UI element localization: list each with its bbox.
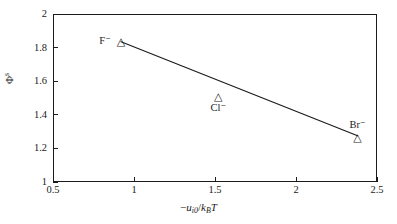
data-point-marker: △ (214, 91, 222, 102)
data-layer (0, 0, 397, 224)
data-point-marker: △ (353, 131, 361, 142)
x-axis-label: −ui0/kBT (0, 201, 397, 215)
y-axis-label: Φs (2, 73, 15, 84)
data-point-label: F⁻ (99, 36, 110, 47)
data-point-label: Br⁻ (350, 119, 366, 130)
x-axis-label-T: T (211, 201, 217, 213)
trend-line (121, 42, 358, 136)
y-axis-label-superscript: s (2, 73, 11, 76)
data-point-label: Cl⁻ (211, 103, 226, 114)
data-point-marker: △ (117, 35, 125, 46)
y-axis-label-phi: Φ (3, 76, 15, 84)
chart-figure: 0.511.522.511.21.41.61.82 △F⁻△Cl⁻△Br⁻ −u… (0, 0, 397, 224)
